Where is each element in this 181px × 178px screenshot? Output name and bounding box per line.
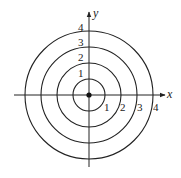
circle-label-right-1: 1 <box>104 101 110 113</box>
origin-point <box>86 92 91 97</box>
concentric-circles-diagram: x y 1 2 3 4 1 2 3 4 <box>0 0 181 178</box>
circle-label-top-1: 1 <box>78 67 84 79</box>
y-axis-label: y <box>92 6 99 20</box>
x-axis-label: x <box>166 87 173 101</box>
circle-label-top-2: 2 <box>78 51 84 63</box>
circle-label-right-3: 3 <box>137 101 143 113</box>
circle-label-top-4: 4 <box>78 21 84 33</box>
circle-label-right-2: 2 <box>120 101 126 113</box>
circle-label-right-4: 4 <box>153 101 159 113</box>
circle-label-top-3: 3 <box>78 36 84 48</box>
